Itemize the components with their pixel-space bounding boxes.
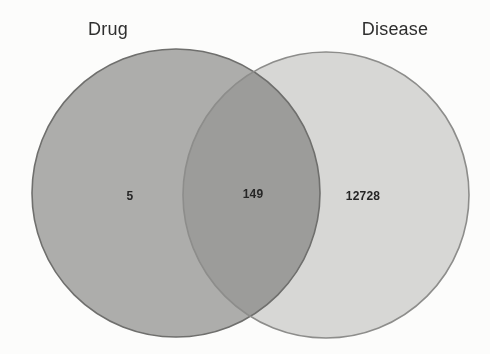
intersection-count: 149 xyxy=(243,187,264,201)
drug-set-label: Drug xyxy=(88,19,128,39)
disease-set-label: Disease xyxy=(362,19,428,39)
venn-diagram: Drug Disease 5 149 12728 xyxy=(0,0,490,354)
disease-only-count: 12728 xyxy=(346,189,380,203)
venn-diagram-figure: Drug Disease 5 149 12728 xyxy=(0,0,490,354)
drug-only-count: 5 xyxy=(127,189,134,203)
